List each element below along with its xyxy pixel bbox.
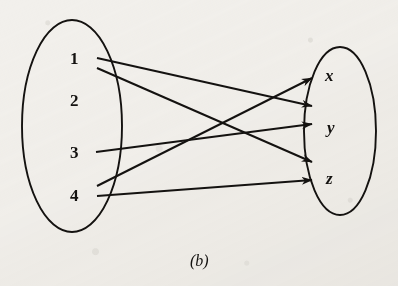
codomain-element-x: x [325, 67, 334, 84]
codomain-ellipse [304, 47, 376, 215]
arrow-group [96, 58, 312, 196]
figure-caption: (b) [190, 253, 209, 269]
figure-canvas: 1 2 3 4 x y z (b) [0, 0, 398, 286]
arrow-4-to-z [97, 180, 312, 196]
domain-element-2: 2 [70, 92, 79, 109]
diagram-svg [0, 0, 398, 286]
codomain-element-z: z [326, 170, 333, 187]
arrow-4-to-x [97, 78, 312, 186]
domain-element-1: 1 [70, 50, 79, 67]
domain-element-4: 4 [70, 187, 79, 204]
codomain-element-y: y [327, 119, 335, 136]
domain-element-3: 3 [70, 144, 79, 161]
